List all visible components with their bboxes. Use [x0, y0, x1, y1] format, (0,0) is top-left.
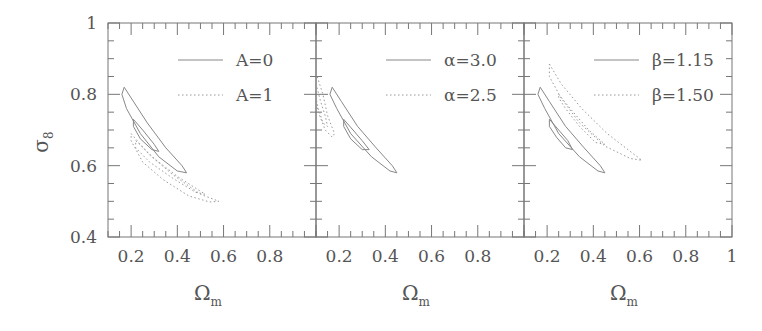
legend-label: α=2.5 — [444, 85, 497, 105]
x-tick-label: 0.8 — [256, 246, 283, 266]
contour-solid — [330, 87, 397, 173]
panel-frame-1 — [108, 23, 316, 237]
x-tick-label: 0.2 — [534, 246, 561, 266]
contour-solid — [538, 87, 605, 173]
x-tick-label: 0.8 — [464, 246, 491, 266]
x-tick-label: 0.4 — [372, 246, 399, 266]
x-tick-label: 0.4 — [580, 246, 607, 266]
y-axis-label: σ8 — [29, 131, 56, 152]
y-tick-label: 1 — [86, 13, 97, 33]
contour-dotted — [136, 141, 205, 195]
x-tick-label: 0.2 — [118, 246, 145, 266]
x-tick-label: 0.8 — [672, 246, 699, 266]
contour-solid — [122, 87, 187, 173]
x-tick-label: 0.6 — [210, 246, 237, 266]
contour-figure: 0.20.40.60.80.20.40.60.80.20.40.60.810.4… — [0, 0, 762, 331]
x-tick-label: 0.2 — [326, 246, 353, 266]
y-tick-label: 0.6 — [70, 156, 97, 176]
x-tick-label: 0.6 — [418, 246, 445, 266]
axes-layer: 0.20.40.60.80.20.40.60.80.20.40.60.810.4… — [70, 13, 737, 266]
legend-label: A=0 — [235, 50, 273, 70]
contour-dotted — [131, 134, 219, 202]
legend-layer: A=0A=1α=3.0α=2.5β=1.15β=1.50 — [178, 50, 714, 105]
x-tick-label: 0.4 — [164, 246, 191, 266]
contour-dotted — [316, 84, 328, 127]
contour-dotted — [316, 73, 335, 137]
y-tick-label: 0.4 — [70, 227, 97, 247]
legend-label: α=3.0 — [444, 50, 497, 70]
x-tick-label: 0.6 — [626, 246, 653, 266]
legend-label: β=1.50 — [652, 85, 714, 105]
contour-dotted — [559, 94, 605, 144]
contour-layer — [122, 64, 642, 202]
x-axis-label-panel-3: Ωm — [610, 281, 639, 309]
y-tick-label: 0.8 — [70, 84, 97, 104]
x-axis-label-panel-2: Ωm — [402, 281, 431, 309]
x-axis-label-panel-1: Ωm — [194, 281, 223, 309]
x-tick-label: 1 — [727, 246, 738, 266]
legend-label: β=1.15 — [652, 50, 714, 70]
contour-solid — [133, 119, 158, 151]
legend-label: A=1 — [235, 85, 273, 105]
